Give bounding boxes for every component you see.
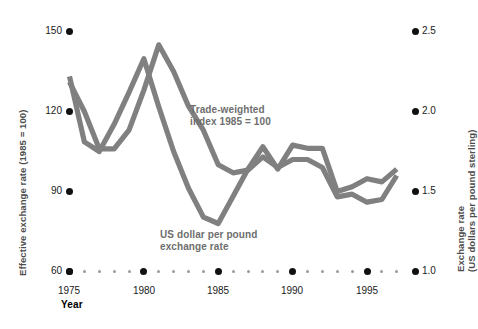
plot-area <box>0 0 478 329</box>
annotation-us-dollar-exchange-rate: US dollar per pound exchange rate <box>160 229 257 253</box>
chart-container: Effective exchange rate (1985 = 100) Exc… <box>0 0 478 329</box>
annotation-trade-weighted-index: Trade-weighted index 1985 = 100 <box>190 104 271 128</box>
